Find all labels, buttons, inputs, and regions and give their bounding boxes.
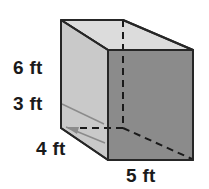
dimension-label-height-lower: 3 ft [13,94,43,113]
dimension-label-depth: 4 ft [36,139,66,158]
prism-front-face [108,50,193,160]
dimension-label-width: 5 ft [126,166,156,185]
dimension-label-height-upper: 6 ft [13,58,43,77]
prism-figure: 6 ft 3 ft 4 ft 5 ft [0,0,209,189]
